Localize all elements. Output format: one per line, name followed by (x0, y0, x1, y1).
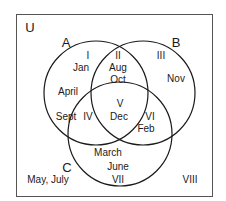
region-iv-sept: Sept (56, 111, 77, 122)
region-ii-oct: Oct (110, 74, 126, 85)
region-vi-feb: Feb (137, 123, 154, 134)
region-vii-numeral: VII (112, 174, 124, 185)
region-ii-numeral: II (115, 50, 121, 61)
region-i-jan: Jan (73, 62, 89, 73)
set-c-label: C (62, 161, 71, 175)
region-i-april: April (58, 86, 78, 97)
region-iii-nov: Nov (167, 73, 185, 84)
region-iv-numeral: IV (83, 111, 92, 122)
universe-label: U (25, 21, 34, 35)
region-vii-june: June (107, 161, 129, 172)
region-viii-may-july: May, July (27, 174, 69, 185)
set-b-label: B (172, 36, 181, 50)
region-ii-aug: Aug (109, 62, 127, 73)
set-a-label: A (62, 36, 71, 50)
region-vi-numeral: VI (145, 111, 154, 122)
region-i-numeral: I (87, 50, 90, 61)
region-vii-march: March (94, 147, 122, 158)
region-v-numeral: V (117, 98, 124, 109)
region-v-dec: Dec (110, 111, 128, 122)
region-viii-numeral: VIII (182, 174, 197, 185)
region-iii-numeral: III (157, 50, 165, 61)
